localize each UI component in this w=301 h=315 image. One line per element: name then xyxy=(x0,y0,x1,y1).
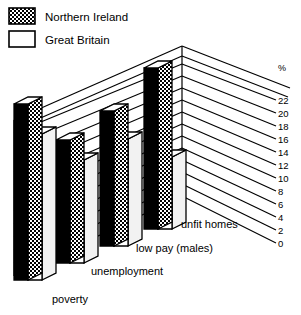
category-label-unfit-homes: unfit homes xyxy=(181,218,238,230)
bar-poverty-northern-ireland xyxy=(14,97,42,280)
bar-side-poverty-gb xyxy=(42,127,56,280)
legend-item-northern-ireland: Northern Ireland xyxy=(9,8,128,24)
bar-chart-svg: Northern Ireland Great Britain xyxy=(0,0,301,315)
bar-side-poverty-ni xyxy=(28,97,42,280)
y-axis-tick-8: 8 xyxy=(278,186,283,197)
bar-side-low-pay-males-gb xyxy=(128,132,142,246)
category-label-low-pay-males: low pay (males) xyxy=(136,242,213,254)
category-label-poverty: poverty xyxy=(52,293,89,305)
category-label-unemployment: unemployment xyxy=(91,265,163,277)
y-axis-unit-label: % xyxy=(278,63,286,73)
y-axis-tick-18: 18 xyxy=(278,121,289,132)
legend-swatch-great-britain xyxy=(9,31,35,47)
y-axis-tick-14: 14 xyxy=(278,147,289,158)
bar-low-pay-males-northern-ireland xyxy=(100,104,128,246)
legend-item-great-britain: Great Britain xyxy=(9,31,110,47)
chart-container: Northern Ireland Great Britain xyxy=(0,0,301,315)
bar-side-unfit-homes-ni xyxy=(158,61,172,229)
bar-face-poverty-ni xyxy=(14,104,28,280)
y-axis-tick-12: 12 xyxy=(278,160,289,171)
bar-face-unemployment-ni xyxy=(56,140,70,263)
y-axis-tick-10: 10 xyxy=(278,173,289,184)
legend-swatch-northern-ireland xyxy=(9,8,35,24)
y-axis-tick-2: 2 xyxy=(278,225,283,236)
bar-side-unemployment-ni xyxy=(70,133,84,263)
legend-label-great-britain: Great Britain xyxy=(45,34,110,46)
y-axis-tick-4: 4 xyxy=(278,212,283,223)
bar-face-low-pay-males-ni xyxy=(100,111,114,246)
legend-label-northern-ireland: Northern Ireland xyxy=(45,11,128,23)
y-axis-tick-0: 0 xyxy=(278,238,283,249)
bar-side-low-pay-males-ni xyxy=(114,104,128,246)
y-axis-tick-16: 16 xyxy=(278,134,289,145)
bar-unfit-homes-northern-ireland xyxy=(144,61,172,229)
y-axis-tick-6: 6 xyxy=(278,199,283,210)
y-axis-tick-20: 20 xyxy=(278,108,289,119)
bar-unemployment-northern-ireland xyxy=(56,133,84,263)
bar-face-unfit-homes-ni xyxy=(144,68,158,229)
bar-group-unemployment xyxy=(56,133,98,263)
y-axis-tick-22: 22 xyxy=(278,95,289,106)
bar-side-unemployment-gb xyxy=(84,153,98,263)
